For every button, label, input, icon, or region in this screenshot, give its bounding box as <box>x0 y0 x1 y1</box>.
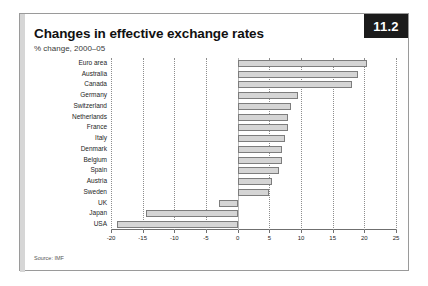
category-label: Sweden <box>84 189 108 196</box>
tick-mark--15 <box>143 230 144 233</box>
category-label: France <box>87 124 107 131</box>
gridline--10 <box>174 58 175 230</box>
plot-area <box>111 58 396 230</box>
category-label: Austria <box>87 178 107 185</box>
bar <box>238 124 289 131</box>
x-axis-ticks: -20-15-10-50510152025 <box>111 230 396 248</box>
category-axis-labels: Euro areaAustraliaCanadaGermanySwitzerla… <box>34 58 111 230</box>
plot-wrapper: Euro areaAustraliaCanadaGermanySwitzerla… <box>34 58 396 248</box>
gridline--15 <box>143 58 144 230</box>
tick-label--5: -5 <box>203 235 208 241</box>
category-label: Australia <box>82 71 107 78</box>
gridline--20 <box>111 58 112 230</box>
tick-mark--10 <box>174 230 175 233</box>
bar <box>238 167 279 174</box>
tick-mark--5 <box>206 230 207 233</box>
tick-label-20: 20 <box>361 235 368 241</box>
tick-label-15: 15 <box>329 235 336 241</box>
gridline-25 <box>396 58 397 230</box>
gridline-20 <box>364 58 365 230</box>
category-label: Netherlands <box>72 114 107 121</box>
gridline--5 <box>206 58 207 230</box>
category-label: UK <box>98 200 107 207</box>
category-label: Italy <box>95 135 107 142</box>
tick-mark-10 <box>301 230 302 233</box>
tick-label-10: 10 <box>298 235 305 241</box>
bar <box>238 135 286 142</box>
category-label: Spain <box>90 167 107 174</box>
tick-mark-5 <box>269 230 270 233</box>
category-label: Japan <box>89 210 107 217</box>
tick-mark-15 <box>333 230 334 233</box>
bar <box>238 114 289 121</box>
bar <box>238 60 368 67</box>
tick-label-5: 5 <box>268 235 271 241</box>
bar <box>146 210 238 217</box>
bar <box>238 178 273 185</box>
bar <box>238 92 298 99</box>
bar <box>238 157 282 164</box>
tick-label--20: -20 <box>107 235 116 241</box>
tick-mark-20 <box>364 230 365 233</box>
chart-title: Changes in effective exchange rates <box>34 26 264 41</box>
tick-label--15: -15 <box>138 235 147 241</box>
tick-label-25: 25 <box>393 235 400 241</box>
bar <box>238 103 292 110</box>
bar <box>238 146 282 153</box>
category-label: USA <box>94 221 107 228</box>
tick-mark--20 <box>111 230 112 233</box>
category-label: Germany <box>80 92 107 99</box>
category-label: Denmark <box>81 146 107 153</box>
source-note: Source: IMF <box>34 255 64 261</box>
category-label: Belgium <box>84 157 107 164</box>
figure-spine <box>20 14 25 272</box>
bar <box>238 71 358 78</box>
chart-figure: 11.2 Changes in effective exchange rates… <box>19 13 409 271</box>
figure-number-badge: 11.2 <box>364 14 408 38</box>
bar <box>117 221 237 228</box>
tick-mark-0 <box>238 230 239 233</box>
chart-subtitle: % change, 2000–05 <box>34 44 105 53</box>
bar <box>238 81 352 88</box>
bar <box>219 200 238 207</box>
tick-mark-25 <box>396 230 397 233</box>
category-label: Euro area <box>78 60 107 67</box>
bar <box>238 189 270 196</box>
tick-label--10: -10 <box>170 235 179 241</box>
tick-label-0: 0 <box>236 235 239 241</box>
category-label: Switzerland <box>73 103 107 110</box>
category-label: Canada <box>84 81 107 88</box>
